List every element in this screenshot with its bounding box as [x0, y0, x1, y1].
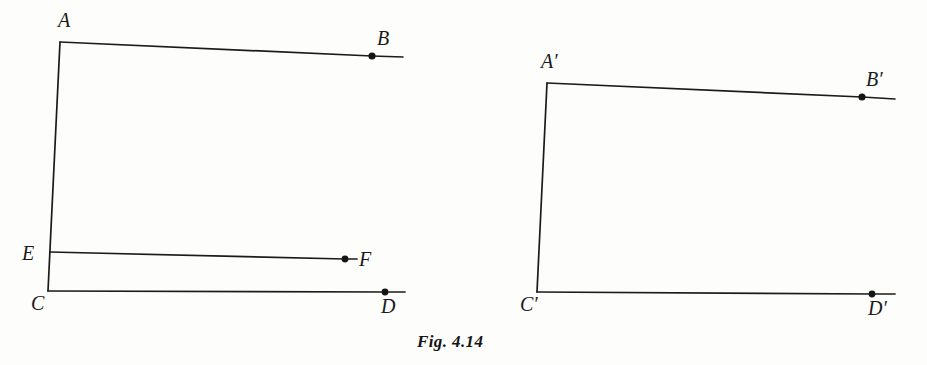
vertex-label-B-prime: B′ — [866, 69, 883, 89]
point-dot-F — [342, 256, 349, 263]
geometry-diagram — [0, 0, 927, 365]
ray-CD — [48, 291, 405, 292]
figure-container: A B E F C D A′ B′ C′ D′ Fig. 4.14 — [0, 0, 927, 365]
ray-EF — [50, 252, 357, 259]
left-figure-group — [48, 42, 405, 295]
vertex-label-F: F — [359, 249, 371, 269]
vertex-label-D-prime: D′ — [868, 298, 887, 318]
vertex-label-C: C — [31, 293, 44, 313]
vertex-label-A: A — [58, 10, 70, 30]
vertex-label-A-prime: A′ — [541, 51, 558, 71]
vertex-label-C-prime: C′ — [520, 294, 538, 314]
ray-A-prime-B-prime — [547, 83, 895, 99]
right-figure-group — [537, 83, 895, 297]
point-dot-B — [368, 52, 375, 59]
segment-A-prime-C-prime — [537, 83, 547, 292]
vertex-label-B: B — [377, 28, 389, 48]
figure-caption: Fig. 4.14 — [417, 333, 483, 350]
point-dot-B-prime — [858, 93, 865, 100]
ray-C-prime-D-prime — [537, 292, 895, 294]
vertex-label-E: E — [22, 243, 34, 263]
vertex-label-D: D — [381, 296, 395, 316]
segment-AC — [48, 42, 60, 291]
ray-AB — [60, 42, 403, 57]
